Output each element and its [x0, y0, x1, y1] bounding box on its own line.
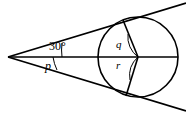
lower-tangent-line	[8, 57, 186, 111]
angle-q-label: q	[116, 39, 122, 50]
radius-upper	[123, 20, 138, 57]
geometry-drawing	[0, 0, 186, 114]
upper-tangent-line	[8, 3, 186, 57]
geometry-figure: 30° p q r	[0, 0, 186, 114]
apex-angle-label: 30°	[49, 40, 66, 52]
apex-angle-arc-lower	[53, 57, 57, 70]
angle-p-label: p	[45, 60, 51, 72]
angle-r-label: r	[116, 60, 120, 71]
radius-lower	[126, 57, 138, 96]
